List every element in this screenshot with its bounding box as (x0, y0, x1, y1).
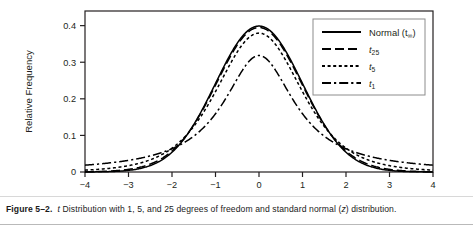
chart-canvas: 00.10.20.30.4−4−3−2−101234Relative Frequ… (0, 0, 473, 232)
figure-caption: Figure 5–2. t Distribution with 1, 5, an… (6, 203, 468, 215)
caption-tail: ) distribution. (346, 204, 397, 214)
x-axis-tick-label: −3 (123, 180, 133, 190)
caption-divider-top (0, 196, 473, 197)
x-axis-tick-label: 0 (256, 180, 261, 190)
figure-number: Figure 5–2. (6, 204, 52, 214)
x-axis-tick-label: −4 (80, 180, 90, 190)
x-axis-tick-label: −2 (167, 180, 177, 190)
x-axis-tick-label: 1 (300, 180, 305, 190)
y-axis-title: Relative Frequency (23, 50, 34, 133)
x-axis-tick-label: 2 (343, 180, 348, 190)
y-axis-tick-label: 0 (71, 167, 76, 177)
y-axis-tick-label: 0.1 (63, 131, 76, 141)
y-axis-tick-label: 0.2 (63, 94, 76, 104)
x-axis-tick-label: −1 (210, 180, 220, 190)
caption-divider-bottom (0, 224, 473, 225)
y-axis-tick-label: 0.3 (63, 58, 76, 68)
y-axis-tick-label: 0.4 (63, 21, 76, 31)
caption-body: Distribution with 1, 5, and 25 degrees o… (60, 204, 341, 214)
x-axis-tick-label: 4 (430, 180, 435, 190)
figure-container: 00.10.20.30.4−4−3−2−101234Relative Frequ… (0, 0, 473, 232)
x-axis-tick-label: 3 (387, 180, 392, 190)
